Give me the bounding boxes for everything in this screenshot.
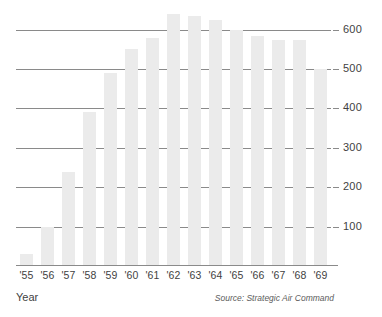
x-tick-label: '57 (58, 269, 79, 281)
y-tick-mark (333, 108, 339, 109)
y-tick-label: 200 (343, 180, 362, 192)
x-axis-title: Year (16, 291, 38, 303)
x-tick-label: '68 (289, 269, 310, 281)
x-tick-label: '65 (226, 269, 247, 281)
x-tick-label: '60 (121, 269, 142, 281)
y-tick-label: 600 (343, 23, 362, 35)
bar[interactable] (314, 69, 327, 266)
bar[interactable] (146, 38, 159, 267)
x-tick-label: '59 (100, 269, 121, 281)
bar[interactable] (209, 20, 222, 266)
plot-area (16, 6, 331, 266)
y-tick-label: 500 (343, 62, 362, 74)
y-tick-label: 400 (343, 101, 362, 113)
x-tick-label: '56 (37, 269, 58, 281)
y-tick-mark (333, 69, 339, 70)
x-axis-line (16, 265, 338, 266)
x-tick-label: '66 (247, 269, 268, 281)
bar[interactable] (125, 49, 138, 266)
x-tick-label: '69 (310, 269, 331, 281)
bar[interactable] (41, 227, 54, 266)
y-tick-label: 300 (343, 141, 362, 153)
y-tick-mark (333, 30, 339, 31)
x-tick-label: '62 (163, 269, 184, 281)
bar[interactable] (188, 16, 201, 266)
bar[interactable] (272, 40, 285, 267)
bar[interactable] (167, 14, 180, 266)
x-axis: '55'56'57'58'59'60'61'62'63'64'65'66'67'… (16, 269, 331, 285)
bar[interactable] (293, 40, 306, 266)
y-tick-mark (333, 227, 339, 228)
bar[interactable] (104, 73, 117, 266)
x-tick-label: '55 (16, 269, 37, 281)
y-tick-label: 100 (343, 220, 362, 232)
bar-chart: 100200300400500600 '55'56'57'58'59'60'61… (0, 0, 382, 317)
bar[interactable] (62, 172, 75, 267)
x-tick-label: '64 (205, 269, 226, 281)
bar-series (16, 6, 331, 266)
y-tick-mark (333, 148, 339, 149)
bar[interactable] (230, 30, 243, 266)
y-tick-mark (333, 187, 339, 188)
source-note: Source: Strategic Air Command (215, 293, 334, 303)
x-tick-label: '58 (79, 269, 100, 281)
bar[interactable] (83, 112, 96, 266)
bar[interactable] (251, 36, 264, 267)
x-tick-label: '67 (268, 269, 289, 281)
x-tick-label: '61 (142, 269, 163, 281)
x-tick-label: '63 (184, 269, 205, 281)
